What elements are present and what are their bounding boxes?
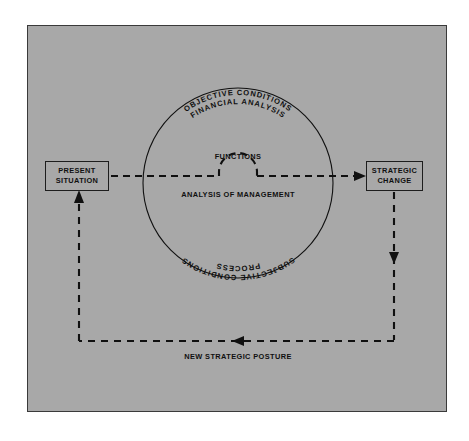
diagram-page: OBJECTIVE CONDITIONS FINANCIAL ANALYSIS …: [0, 0, 469, 441]
node-present-situation[interactable]: PRESENT SITUATION: [45, 161, 109, 191]
arrowhead-into-strategic: [354, 171, 366, 181]
label-new-strategic-posture: NEW STRATEGIC POSTURE: [184, 352, 292, 361]
arc-label-process: PROCESS: [215, 261, 261, 273]
connector-bottom-return: [79, 336, 394, 346]
connector-strategic-down: [389, 192, 399, 340]
arrowhead-left-bottom: [232, 336, 244, 346]
process-circle: [143, 88, 333, 278]
node-strategic-change-line1: STRATEGIC: [372, 166, 417, 176]
node-strategic-change-line2: CHANGE: [377, 176, 411, 186]
node-present-situation-line1: PRESENT: [58, 166, 95, 176]
arrowhead-down-right: [389, 252, 399, 264]
label-functions: FUNCTIONS: [215, 152, 262, 161]
arrowhead-up-into-present: [74, 190, 84, 203]
label-analysis-of-management: ANALYSIS OF MANAGEMENT: [181, 190, 295, 199]
diagram-canvas: OBJECTIVE CONDITIONS FINANCIAL ANALYSIS …: [0, 0, 469, 441]
node-present-situation-line2: SITUATION: [56, 176, 98, 186]
connector-up-to-present: [74, 190, 84, 341]
node-strategic-change[interactable]: STRATEGIC CHANGE: [366, 161, 423, 191]
